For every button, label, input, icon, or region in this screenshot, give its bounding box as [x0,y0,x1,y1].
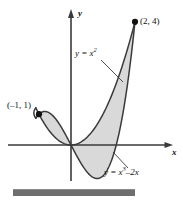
point-label-neg1-1: (–1, 1) [7,101,31,110]
shaded-region [39,22,135,179]
curve-label-cubic: y = x3–2x [104,168,139,177]
curve-label-cubic-text: y = x [104,167,123,177]
curve-label-parabola-text: y = x [75,48,94,58]
y-axis-arrowhead [68,9,74,18]
curve-left-lobe [34,108,36,119]
point-label-2-4: (2, 4) [140,17,160,26]
curve-label-parabola: y = x2 [75,49,97,58]
leader-line-parabola [101,60,123,82]
x-axis-label: x [172,148,177,157]
point-marker-2-4 [132,19,138,25]
curve-label-cubic-suffix: –2x [126,167,139,177]
bottom-rule-bar [13,189,135,196]
point-marker-neg1-1 [36,111,42,117]
curve-label-parabola-exponent: 2 [94,46,97,53]
y-axis-label: y [78,9,82,18]
figure-canvas: y x (2, 4) (–1, 1) y = x2 y = x3–2x [0,0,183,202]
